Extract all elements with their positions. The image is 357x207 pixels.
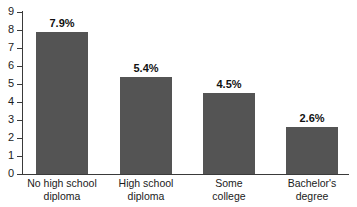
x-axis-category-label: No high schooldiploma — [19, 177, 105, 203]
x-axis-category-label-line: diploma — [19, 190, 105, 203]
y-axis-tick-label: 5 — [0, 78, 14, 89]
y-axis-tick — [17, 66, 23, 67]
x-axis-category-label-line: degree — [269, 190, 355, 203]
x-axis-category-label-line: Some — [186, 177, 272, 190]
bar-value-label: 5.4% — [116, 62, 176, 74]
y-axis-tick — [17, 102, 23, 103]
x-axis-category-label: High schooldiploma — [103, 177, 189, 203]
bar — [36, 32, 88, 174]
y-axis-tick-label: 3 — [0, 114, 14, 125]
x-axis-category-label: Bachelor'sdegree — [269, 177, 355, 203]
y-axis-tick — [17, 156, 23, 157]
x-axis-category-label-line: Bachelor's — [269, 177, 355, 190]
y-axis-tick — [17, 138, 23, 139]
y-axis-tick — [17, 84, 23, 85]
y-axis-tick-label: 1 — [0, 150, 14, 161]
x-axis-category-label-line: No high school — [19, 177, 105, 190]
y-axis-tick-label: 8 — [0, 24, 14, 35]
bar-value-label: 2.6% — [282, 112, 342, 124]
y-axis-tick — [17, 30, 23, 31]
x-axis-category-label: Somecollege — [186, 177, 272, 203]
bar-chart: 0123456789 7.9%5.4%4.5%2.6% No high scho… — [0, 0, 357, 207]
y-axis-tick-label: 9 — [0, 6, 14, 17]
y-axis-tick-label: 6 — [0, 60, 14, 71]
x-axis-category-label-line: High school — [103, 177, 189, 190]
y-axis-tick-label: 2 — [0, 132, 14, 143]
bar-value-label: 4.5% — [199, 78, 259, 90]
x-axis-category-label-line: diploma — [103, 190, 189, 203]
y-axis-tick — [17, 120, 23, 121]
y-axis-line — [22, 11, 23, 175]
bar — [286, 127, 338, 174]
y-axis-tick-label: 7 — [0, 42, 14, 53]
bar-value-label: 7.9% — [32, 17, 92, 29]
y-axis-tick-label: 0 — [0, 168, 14, 179]
x-axis-line — [22, 174, 349, 175]
y-axis-tick — [17, 48, 23, 49]
y-axis-tick-label: 4 — [0, 96, 14, 107]
bar — [203, 93, 255, 174]
plot-area: 0123456789 7.9%5.4%4.5%2.6% No high scho… — [0, 0, 357, 207]
bar — [120, 77, 172, 174]
y-axis-tick — [17, 12, 23, 13]
x-axis-category-label-line: college — [186, 190, 272, 203]
